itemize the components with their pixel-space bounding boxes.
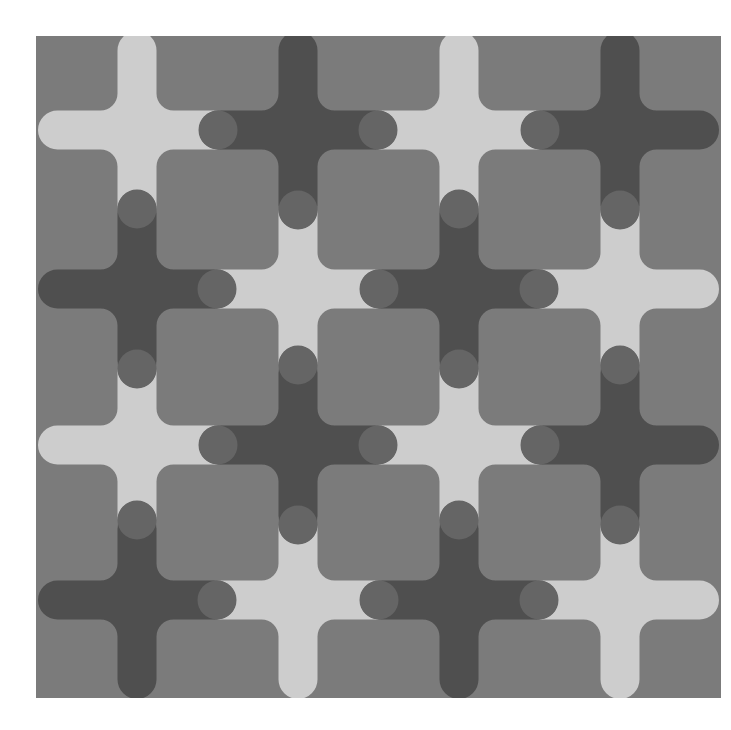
cross-end-cap-right xyxy=(520,270,559,309)
cross-end-cap-right xyxy=(359,426,398,465)
cross-end-cap-bottom xyxy=(601,191,640,230)
cross-end-cap-left xyxy=(199,111,238,150)
cross-end-cap-right xyxy=(198,581,237,620)
cross-end-cap-bottom xyxy=(279,191,318,230)
cross-end-cap-right xyxy=(520,581,559,620)
cross-end-cap-left xyxy=(521,426,560,465)
cross-end-cap-right xyxy=(198,270,237,309)
cross-end-cap-bottom xyxy=(118,350,157,389)
cross-pattern-artwork xyxy=(0,0,731,730)
cross-end-cap-top xyxy=(601,346,640,385)
cross-end-cap-top xyxy=(440,501,479,540)
cross-end-cap-top xyxy=(118,190,157,229)
cross-end-cap-left xyxy=(360,581,399,620)
cross-end-cap-left xyxy=(521,111,560,150)
cross-end-cap-top xyxy=(440,190,479,229)
cross-end-cap-right xyxy=(359,111,398,150)
cross-end-cap-top xyxy=(279,346,318,385)
cross-end-cap-bottom xyxy=(440,350,479,389)
cross-end-cap-bottom xyxy=(601,506,640,545)
cross-end-cap-bottom xyxy=(279,506,318,545)
cross-end-cap-left xyxy=(360,270,399,309)
cross-end-cap-top xyxy=(118,501,157,540)
cross-end-cap-left xyxy=(199,426,238,465)
